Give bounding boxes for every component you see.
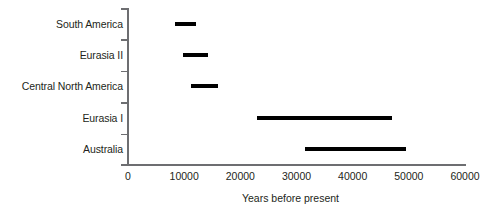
x-axis-tick-label: 20000 bbox=[226, 170, 255, 182]
y-axis-label-eurasia-ii: Eurasia II bbox=[80, 49, 123, 61]
chart-row-central-north-america: Central North America bbox=[0, 71, 487, 102]
x-axis-tick-label: 50000 bbox=[394, 170, 423, 182]
y-axis-label-central-north-america: Central North America bbox=[22, 80, 123, 92]
range-bar-south-america bbox=[175, 22, 196, 26]
chart-row-australia: Australia bbox=[0, 134, 487, 165]
x-axis-title-text: Years before present bbox=[242, 192, 339, 204]
extinction-range-chart: South America Eurasia II Central North A… bbox=[0, 0, 487, 220]
range-bar-eurasia-i bbox=[257, 116, 392, 120]
x-axis-tick-label: 60000 bbox=[450, 170, 479, 182]
range-bar-eurasia-ii bbox=[183, 53, 208, 57]
y-axis-label-australia: Australia bbox=[83, 143, 123, 155]
chart-row-eurasia-i: Eurasia I bbox=[0, 102, 487, 133]
y-axis-label-south-america: South America bbox=[56, 18, 123, 30]
x-axis-tick-label: 0 bbox=[125, 170, 131, 182]
x-axis-tick-label: 40000 bbox=[338, 170, 367, 182]
chart-row-south-america: South America bbox=[0, 8, 487, 39]
range-bar-australia bbox=[305, 147, 406, 151]
y-axis-label-eurasia-i: Eurasia I bbox=[82, 112, 123, 124]
x-axis-tick-label: 10000 bbox=[170, 170, 199, 182]
chart-row-eurasia-ii: Eurasia II bbox=[0, 39, 487, 70]
range-bar-central-north-america bbox=[191, 84, 218, 88]
x-axis-tick-label: 30000 bbox=[282, 170, 311, 182]
x-axis-title: Years before present bbox=[0, 192, 487, 204]
